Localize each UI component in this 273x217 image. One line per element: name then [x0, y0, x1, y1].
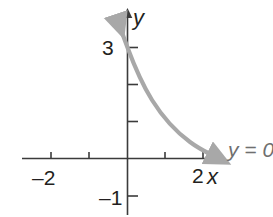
graph-figure: 3 y –2 2 x –1 y = 0	[0, 0, 273, 217]
y-axis-label: y	[133, 7, 144, 29]
exponential-decay-curve	[117, 18, 211, 155]
x-axis	[22, 152, 214, 159]
y-tick-label-3: 3	[102, 37, 114, 58]
y-tick-label-negative-1: –1	[99, 187, 122, 208]
x-axis-label: x	[207, 166, 218, 188]
asymptote-label: y = 0	[228, 139, 273, 160]
x-tick-label-negative-2: –2	[32, 167, 55, 188]
x-tick-label-2: 2	[192, 165, 204, 186]
